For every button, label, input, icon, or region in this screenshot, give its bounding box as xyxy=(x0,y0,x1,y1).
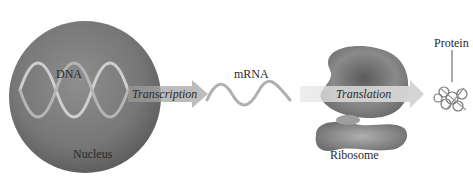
ribosome-label: Ribosome xyxy=(330,148,379,163)
ribosome-small-subunit xyxy=(316,122,408,151)
dna-label: DNA xyxy=(56,67,82,82)
central-dogma-diagram: DNA Transcription Nucleus mRNA Translati… xyxy=(0,0,473,180)
diagram-graphics xyxy=(0,0,473,180)
protein-label: Protein xyxy=(434,36,469,51)
ribosome-large-subunit xyxy=(321,46,409,118)
translation-label: Translation xyxy=(336,87,391,102)
transcription-label: Transcription xyxy=(132,87,197,102)
nucleus-label: Nucleus xyxy=(73,147,112,162)
mrna-label: mRNA xyxy=(234,67,269,82)
mrna-strand-icon xyxy=(207,81,290,105)
protein-structure-icon xyxy=(434,87,467,111)
